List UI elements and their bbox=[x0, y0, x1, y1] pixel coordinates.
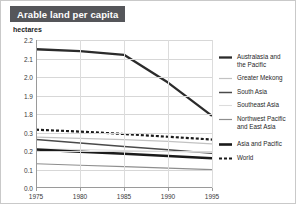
x-axis-tick bbox=[36, 188, 37, 191]
legend-swatch-icon bbox=[219, 56, 232, 59]
x-tick-label: 1990 bbox=[161, 193, 175, 200]
legend-item[interactable]: World bbox=[219, 154, 293, 162]
legend-item[interactable]: South Asia bbox=[219, 88, 293, 96]
x-tick-label: 1975 bbox=[29, 193, 43, 200]
chart-frame: Arable land per capita hectares 2.22.12.… bbox=[0, 0, 296, 204]
legend-item[interactable]: Greater Mekong bbox=[219, 74, 293, 82]
legend-label: World bbox=[237, 154, 253, 162]
y-tick-label: 2.0 bbox=[24, 74, 33, 81]
x-tick-label: 1995 bbox=[205, 193, 219, 200]
chart-title-banner: Arable land per capita bbox=[10, 6, 125, 22]
legend-swatch-icon bbox=[219, 118, 232, 121]
legend-label: Southeast Asia bbox=[237, 101, 279, 109]
legend-label: Northwest Pacific and East Asia bbox=[237, 115, 286, 130]
chart-legend: Australasia and the PacificGreater Mekon… bbox=[219, 53, 293, 167]
gridline-vertical bbox=[212, 40, 213, 188]
x-axis-tick bbox=[168, 188, 169, 191]
y-tick-label: 1.9 bbox=[24, 92, 33, 99]
y-tick-label: 2.1 bbox=[24, 55, 33, 62]
legend-swatch-icon bbox=[219, 77, 232, 80]
x-axis-tick bbox=[124, 188, 125, 191]
legend-label: South Asia bbox=[237, 88, 267, 96]
y-tick-label: 0.3 bbox=[24, 129, 33, 136]
gridline-vertical bbox=[168, 40, 169, 188]
legend-item[interactable]: Asia and Pacific bbox=[219, 140, 293, 148]
y-tick-label: 0.0 bbox=[24, 185, 33, 192]
legend-label: Asia and Pacific bbox=[237, 140, 282, 148]
legend-swatch-icon bbox=[219, 157, 232, 160]
legend-swatch-icon bbox=[219, 143, 232, 146]
y-tick-label: 1.8 bbox=[24, 111, 33, 118]
x-tick-label: 1980 bbox=[73, 193, 87, 200]
x-tick-label: 1985 bbox=[117, 193, 131, 200]
y-axis-tick-labels: 2.22.12.01.91.80.30.20.10.0 bbox=[13, 40, 33, 188]
x-axis-tick bbox=[212, 188, 213, 191]
legend-label: Greater Mekong bbox=[237, 74, 283, 82]
gridline-vertical bbox=[124, 40, 125, 188]
y-tick-label: 0.2 bbox=[24, 148, 33, 155]
legend-item[interactable]: Australasia and the Pacific bbox=[219, 53, 293, 68]
y-axis-line bbox=[36, 40, 37, 188]
legend-swatch-icon bbox=[219, 104, 232, 107]
gridline-vertical bbox=[80, 40, 81, 188]
legend-swatch-icon bbox=[219, 91, 232, 94]
legend-item[interactable]: Southeast Asia bbox=[219, 101, 293, 109]
y-tick-label: 2.2 bbox=[24, 37, 33, 44]
y-tick-label: 0.1 bbox=[24, 166, 33, 173]
page-title: Arable land per capita bbox=[17, 9, 118, 20]
legend-label: Australasia and the Pacific bbox=[237, 53, 280, 68]
legend-item[interactable]: Northwest Pacific and East Asia bbox=[219, 115, 293, 130]
y-axis-unit-label: hectares bbox=[13, 26, 42, 33]
x-axis-tick bbox=[80, 188, 81, 191]
plot-area bbox=[36, 40, 212, 188]
